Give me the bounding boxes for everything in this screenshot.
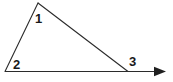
figure-background [0, 0, 173, 82]
geometry-figure: 1 2 3 [0, 0, 173, 82]
angle-label-2: 2 [13, 58, 20, 71]
figure-canvas [0, 0, 173, 82]
angle-label-1: 1 [35, 12, 42, 25]
angle-label-3: 3 [129, 55, 136, 68]
